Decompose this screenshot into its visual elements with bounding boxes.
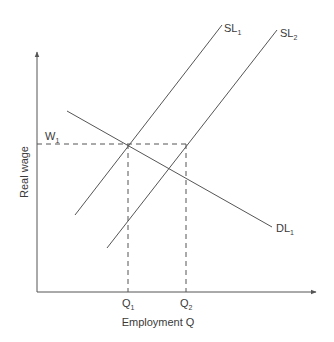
labor-market-diagram: SL1 SL2 DL1 W1 Q1 Q2 Employment Q Real w… [0,0,334,342]
y-axis-title: Real wage [18,146,30,198]
q1-label: Q1 [122,297,135,311]
x-axis-title: Employment Q [122,316,195,328]
sl1-label: SL1 [224,22,241,36]
q2-label: Q2 [180,297,193,311]
dl1-label: DL1 [276,222,294,236]
w1-label: W1 [45,130,59,144]
sl2-label: SL2 [280,27,297,41]
demand-curve-dl1 [67,111,272,227]
